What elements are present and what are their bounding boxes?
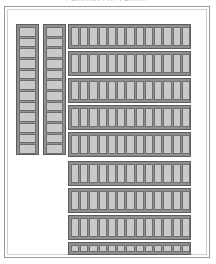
parking-stall[interactable] (154, 27, 162, 46)
parking-stall[interactable] (108, 135, 116, 154)
parking-stall[interactable] (46, 48, 63, 58)
parking-stall[interactable] (46, 123, 63, 133)
parking-stall[interactable] (145, 108, 153, 127)
aisle-row-9[interactable] (68, 242, 191, 255)
parking-stall[interactable] (99, 218, 107, 237)
aisle-row-2[interactable] (68, 51, 191, 76)
parking-stall[interactable] (173, 245, 181, 252)
parking-stall[interactable] (108, 218, 116, 237)
parking-stall[interactable] (19, 38, 36, 48)
parking-stall[interactable] (163, 108, 171, 127)
parking-stall[interactable] (126, 54, 134, 73)
parking-stall[interactable] (46, 27, 63, 37)
parking-stall[interactable] (99, 191, 107, 210)
parking-stall[interactable] (173, 135, 181, 154)
parking-stall[interactable] (117, 27, 125, 46)
parking-stall[interactable] (99, 54, 107, 73)
parking-stall[interactable] (173, 81, 181, 100)
parking-stall[interactable] (19, 59, 36, 69)
west-column-b[interactable] (43, 24, 66, 155)
parking-stall[interactable] (154, 135, 162, 154)
parking-stall[interactable] (117, 54, 125, 73)
parking-stall[interactable] (117, 245, 125, 252)
parking-stall[interactable] (46, 102, 63, 112)
parking-stall[interactable] (117, 108, 125, 127)
parking-stall[interactable] (46, 70, 63, 80)
parking-stall[interactable] (117, 191, 125, 210)
parking-stall[interactable] (145, 54, 153, 73)
parking-stall[interactable] (89, 108, 97, 127)
parking-stall[interactable] (182, 54, 190, 73)
parking-stall[interactable] (99, 135, 107, 154)
parking-stall[interactable] (108, 108, 116, 127)
parking-stall[interactable] (19, 112, 36, 122)
aisle-row-1[interactable] (68, 24, 191, 49)
parking-stall[interactable] (145, 81, 153, 100)
parking-stall[interactable] (136, 81, 144, 100)
parking-stall[interactable] (99, 27, 107, 46)
parking-stall[interactable] (163, 27, 171, 46)
parking-stall[interactable] (154, 191, 162, 210)
parking-stall[interactable] (71, 108, 79, 127)
parking-stall[interactable] (80, 54, 88, 73)
parking-stall[interactable] (126, 245, 134, 252)
parking-stall[interactable] (71, 27, 79, 46)
parking-stall[interactable] (99, 81, 107, 100)
aisle-row-6[interactable] (68, 161, 191, 186)
parking-stall[interactable] (108, 81, 116, 100)
parking-stall[interactable] (80, 27, 88, 46)
parking-stall[interactable] (145, 135, 153, 154)
parking-stall[interactable] (80, 218, 88, 237)
parking-stall[interactable] (173, 164, 181, 183)
parking-stall[interactable] (80, 108, 88, 127)
parking-stall[interactable] (46, 80, 63, 90)
parking-stall[interactable] (154, 245, 162, 252)
parking-stall[interactable] (145, 164, 153, 183)
parking-stall[interactable] (89, 135, 97, 154)
parking-stall[interactable] (126, 135, 134, 154)
parking-stall[interactable] (80, 164, 88, 183)
parking-stall[interactable] (99, 108, 107, 127)
parking-stall[interactable] (46, 144, 63, 154)
parking-stall[interactable] (46, 59, 63, 69)
parking-stall[interactable] (182, 164, 190, 183)
parking-stall[interactable] (108, 27, 116, 46)
parking-stall[interactable] (182, 81, 190, 100)
parking-stall[interactable] (163, 191, 171, 210)
parking-stall[interactable] (154, 164, 162, 183)
parking-stall[interactable] (99, 245, 107, 252)
parking-stall[interactable] (163, 81, 171, 100)
parking-stall[interactable] (108, 191, 116, 210)
parking-stall[interactable] (182, 27, 190, 46)
aisle-row-4[interactable] (68, 105, 191, 130)
parking-stall[interactable] (117, 135, 125, 154)
parking-stall[interactable] (182, 245, 190, 252)
aisle-row-5[interactable] (68, 132, 191, 157)
parking-stall[interactable] (117, 218, 125, 237)
parking-stall[interactable] (126, 191, 134, 210)
parking-stall[interactable] (145, 218, 153, 237)
parking-stall[interactable] (19, 91, 36, 101)
parking-stall[interactable] (163, 245, 171, 252)
parking-stall[interactable] (19, 134, 36, 144)
parking-stall[interactable] (154, 108, 162, 127)
parking-stall[interactable] (89, 164, 97, 183)
parking-stall[interactable] (89, 218, 97, 237)
parking-stall[interactable] (173, 27, 181, 46)
parking-stall[interactable] (145, 191, 153, 210)
parking-stall[interactable] (71, 218, 79, 237)
parking-stall[interactable] (136, 135, 144, 154)
parking-stall[interactable] (173, 108, 181, 127)
parking-stall[interactable] (89, 191, 97, 210)
parking-stall[interactable] (80, 135, 88, 154)
parking-stall[interactable] (71, 164, 79, 183)
parking-stall[interactable] (19, 102, 36, 112)
parking-stall[interactable] (182, 108, 190, 127)
parking-stall[interactable] (154, 81, 162, 100)
parking-stall[interactable] (19, 48, 36, 58)
parking-stall[interactable] (126, 27, 134, 46)
parking-stall[interactable] (19, 123, 36, 133)
parking-stall[interactable] (89, 54, 97, 73)
parking-stall[interactable] (173, 54, 181, 73)
parking-stall[interactable] (89, 245, 97, 252)
